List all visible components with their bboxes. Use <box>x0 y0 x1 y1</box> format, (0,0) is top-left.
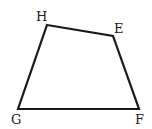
vertex-label-g: G <box>11 112 21 127</box>
quadrilateral-HEFG <box>18 25 139 109</box>
vertex-label-h: H <box>36 9 47 24</box>
vertex-label-e: E <box>114 21 124 36</box>
quadrilateral-diagram: H E F G <box>0 0 152 129</box>
vertex-label-f: F <box>135 112 144 127</box>
